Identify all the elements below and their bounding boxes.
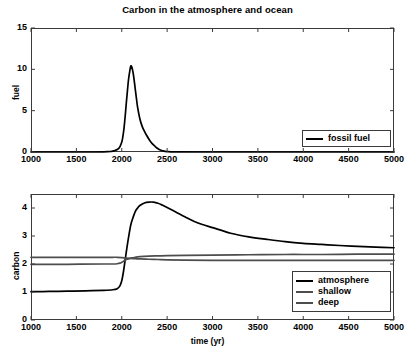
- top-tick-marks: [0, 0, 415, 175]
- x-tick-label: 2000: [102, 154, 142, 164]
- y-tick-label: 5: [1, 105, 27, 115]
- x-tick-label: 5000: [374, 154, 414, 164]
- legend-label: shallow: [318, 286, 351, 297]
- top-y-axis-label: fuel: [11, 85, 21, 100]
- x-tick-label: 1500: [56, 154, 96, 164]
- legend-item[interactable]: shallow: [296, 286, 386, 297]
- x-tick-label: 3000: [193, 154, 233, 164]
- legend-line-swatch: [296, 280, 313, 282]
- x-tick-label: 2500: [147, 322, 187, 332]
- x-tick-label: 1500: [56, 322, 96, 332]
- legend-label: atmosphere: [318, 275, 369, 286]
- x-tick-label: 4000: [283, 322, 323, 332]
- legend-label: deep: [318, 297, 339, 308]
- bottom-panel: carbon time (yr) 01234 10001500200025003…: [0, 175, 415, 356]
- bottom-legend[interactable]: atmosphereshallowdeep: [292, 271, 391, 312]
- top-panel: fuel 051015 1000150020002500300035004000…: [0, 0, 415, 175]
- x-tick-label: 3500: [238, 322, 278, 332]
- y-tick-label: 1: [1, 286, 27, 296]
- y-tick-label: 3: [1, 230, 27, 240]
- legend-label: fossil fuel: [328, 133, 370, 144]
- y-tick-label: 2: [1, 258, 27, 268]
- bottom-x-axis-label: time (yr): [0, 336, 415, 346]
- top-legend[interactable]: fossil fuel: [302, 130, 391, 147]
- y-tick-label: 10: [1, 63, 27, 73]
- legend-item[interactable]: deep: [296, 297, 386, 308]
- x-tick-label: 3000: [193, 322, 233, 332]
- x-tick-label: 1000: [11, 154, 51, 164]
- x-tick-label: 4500: [329, 322, 369, 332]
- x-tick-label: 1000: [11, 322, 51, 332]
- x-tick-label: 2000: [102, 322, 142, 332]
- x-tick-label: 3500: [238, 154, 278, 164]
- x-tick-label: 2500: [147, 154, 187, 164]
- legend-item[interactable]: atmosphere: [296, 275, 386, 286]
- legend-line-swatch: [306, 138, 323, 140]
- figure-canvas: Carbon in the atmosphere and ocean fuel …: [0, 0, 415, 356]
- legend-item[interactable]: fossil fuel: [306, 133, 386, 144]
- legend-line-swatch: [296, 302, 313, 304]
- x-tick-label: 4500: [329, 154, 369, 164]
- legend-line-swatch: [296, 291, 313, 293]
- y-tick-label: 4: [1, 202, 27, 212]
- y-tick-label: 15: [1, 22, 27, 32]
- x-tick-label: 5000: [374, 322, 414, 332]
- x-tick-label: 4000: [283, 154, 323, 164]
